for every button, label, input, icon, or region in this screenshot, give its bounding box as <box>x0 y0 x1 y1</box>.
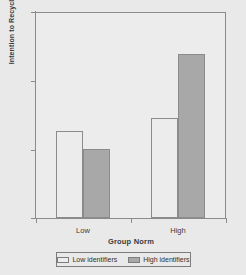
x-tick-label-high: High <box>148 226 208 235</box>
legend-swatch-high-identifiers-icon <box>128 257 140 263</box>
bar-low-norm-low-identifiers <box>56 131 83 218</box>
x-tick-mark-middle <box>131 219 132 223</box>
legend-swatch-low-identifiers-icon <box>57 257 69 263</box>
y-axis-title: Intention to Recycle <box>6 0 18 85</box>
bar-chart-figure: Intention to Recycle 7 6 5 4 Low High Gr… <box>0 0 246 275</box>
legend-label-low-identifiers: Low identifiers <box>72 256 117 264</box>
x-tick-label-low: Low <box>53 226 113 235</box>
bar-high-norm-low-identifiers <box>151 118 178 218</box>
chart-legend: Low identifiers High identifiers <box>56 252 191 267</box>
bar-high-norm-high-identifiers <box>178 54 205 218</box>
plot-area <box>36 12 226 218</box>
bar-low-norm-high-identifiers <box>83 149 110 218</box>
x-tick-mark-left <box>36 219 37 223</box>
y-axis-line <box>35 11 36 219</box>
legend-entry-low-identifiers: Low identifiers <box>57 256 117 264</box>
x-tick-mark-right <box>226 219 227 223</box>
legend-entry-high-identifiers: High identifiers <box>128 256 189 264</box>
x-axis-title: Group Norm <box>36 237 226 246</box>
legend-label-high-identifiers: High identifiers <box>143 256 189 264</box>
